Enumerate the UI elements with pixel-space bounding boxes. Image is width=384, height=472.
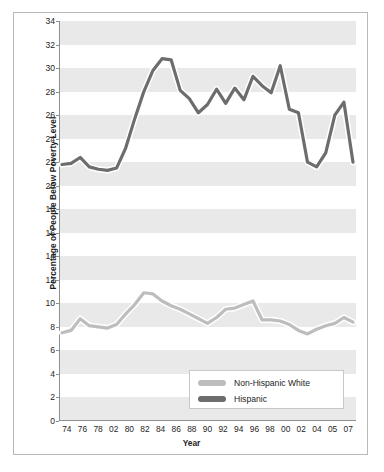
- y-tick-label: 10: [25, 298, 55, 308]
- x-tick-label: 04: [312, 424, 321, 434]
- y-tick-label: 22: [25, 157, 55, 167]
- y-tick-label: 2: [25, 392, 55, 402]
- chart-figure: Percentage of People Below Poverty Level…: [13, 12, 368, 455]
- y-tick-label: 32: [25, 40, 55, 50]
- x-tick-label: 05: [328, 424, 337, 434]
- legend-swatch-non-hispanic-white: [198, 380, 226, 386]
- x-tick-label: 84: [156, 424, 165, 434]
- y-tick-label: 8: [25, 322, 55, 332]
- x-axis-title: Year: [14, 438, 369, 448]
- y-tick-mark: [56, 421, 59, 422]
- legend-item-non-hispanic-white: Non-Hispanic White: [198, 375, 310, 391]
- series-line: [62, 59, 353, 171]
- series-line: [62, 293, 353, 334]
- x-tick-label: 96: [250, 424, 259, 434]
- x-tick-label: 00: [281, 424, 290, 434]
- x-tick-label: 78: [93, 424, 102, 434]
- legend-label-hispanic: Hispanic: [234, 394, 267, 404]
- y-tick-label: 16: [25, 228, 55, 238]
- series-lines: [59, 21, 356, 421]
- x-tick-label: 86: [172, 424, 181, 434]
- y-tick-label: 14: [25, 251, 55, 261]
- legend-item-hispanic: Hispanic: [198, 391, 267, 407]
- y-tick-label: 24: [25, 134, 55, 144]
- y-tick-label: 6: [25, 345, 55, 355]
- y-tick-label: 20: [25, 181, 55, 191]
- chart-legend: Non-Hispanic White Hispanic: [189, 370, 344, 409]
- x-tick-label: 90: [203, 424, 212, 434]
- x-tick-label: 88: [187, 424, 196, 434]
- legend-label-non-hispanic-white: Non-Hispanic White: [234, 378, 310, 388]
- x-tick-label: 02: [109, 424, 118, 434]
- legend-swatch-hispanic: [198, 396, 226, 402]
- y-tick-label: 12: [25, 275, 55, 285]
- y-tick-label: 30: [25, 63, 55, 73]
- x-tick-label: 74: [62, 424, 71, 434]
- x-tick-label: 92: [218, 424, 227, 434]
- y-tick-label: 18: [25, 204, 55, 214]
- x-tick-label: 07: [344, 424, 353, 434]
- x-tick-label: 82: [140, 424, 149, 434]
- series-halo: [62, 59, 353, 171]
- x-tick-label: 98: [265, 424, 274, 434]
- y-tick-label: 26: [25, 110, 55, 120]
- y-tick-label: 34: [25, 16, 55, 26]
- x-tick-label: 02: [297, 424, 306, 434]
- y-tick-label: 4: [25, 369, 55, 379]
- plot-area: 0246810121416182022242628303234 74767802…: [59, 21, 356, 421]
- x-tick-label: 76: [78, 424, 87, 434]
- x-tick-label: 94: [234, 424, 243, 434]
- x-tick-label: 80: [125, 424, 134, 434]
- y-tick-label: 0: [25, 416, 55, 426]
- y-tick-label: 28: [25, 87, 55, 97]
